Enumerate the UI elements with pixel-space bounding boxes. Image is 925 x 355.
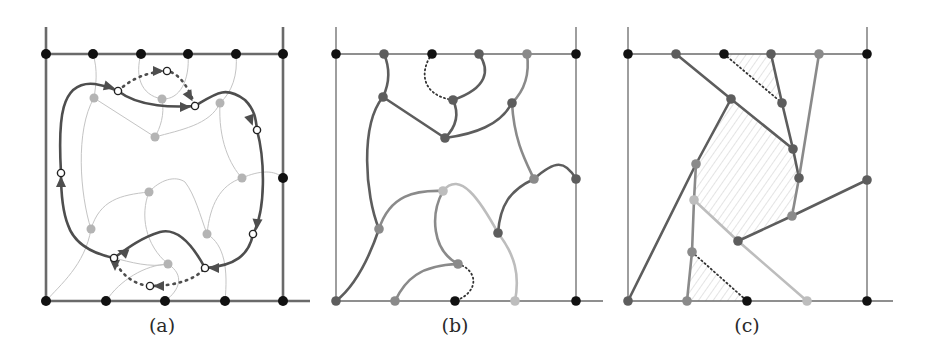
vertex <box>522 49 532 59</box>
tree-edge <box>453 54 485 100</box>
boundary-vertex <box>231 49 241 59</box>
vertex <box>777 98 787 108</box>
dual-edge <box>207 178 242 234</box>
vertex <box>766 49 776 59</box>
dual-edge <box>114 258 168 265</box>
inner-vertex <box>151 133 160 142</box>
vertex <box>448 95 458 105</box>
vertex <box>571 49 581 59</box>
tree-edge <box>498 179 534 233</box>
vertex <box>862 49 872 59</box>
vertex <box>529 174 539 184</box>
tree-edge <box>512 103 534 179</box>
tree-edge <box>367 97 383 229</box>
inner-vertex <box>87 225 96 234</box>
dual-edge <box>220 54 236 103</box>
vertex <box>571 296 581 306</box>
dual-edge <box>91 192 149 229</box>
vertex <box>788 144 798 154</box>
vertex <box>742 296 752 306</box>
vertex <box>862 175 872 185</box>
tree-edge <box>445 100 456 138</box>
boundary-vertex <box>278 49 288 59</box>
vertex <box>453 259 463 269</box>
inner-vertex <box>216 99 225 108</box>
inner-vertex <box>90 94 99 103</box>
vertex <box>623 296 633 306</box>
vertex <box>331 49 341 59</box>
vertex <box>687 247 697 257</box>
vertex <box>510 296 520 306</box>
vertex <box>571 174 581 184</box>
cycle-loop <box>60 84 263 268</box>
boundary-vertex <box>183 49 193 59</box>
vertex <box>691 159 701 169</box>
hatched-region <box>687 252 747 301</box>
dual-edge <box>81 98 94 229</box>
tree-edge <box>534 165 576 179</box>
inner-vertex <box>164 260 173 269</box>
vertex <box>802 296 812 306</box>
vertex <box>440 133 450 143</box>
vertex <box>474 49 484 59</box>
caption-a: (a) <box>149 314 175 336</box>
tree-edge <box>512 54 528 103</box>
vertex <box>726 94 736 104</box>
arrowhead-icon <box>180 102 191 112</box>
panel-c <box>623 27 893 306</box>
vertex <box>787 211 797 221</box>
vertex <box>390 296 400 306</box>
tree-edge <box>383 54 388 97</box>
figure: (a) (b) (c) <box>0 0 925 355</box>
boundary-vertex <box>88 49 98 59</box>
boundary-vertex <box>278 296 288 306</box>
vertex <box>493 228 503 238</box>
vertex <box>733 236 743 246</box>
vertex <box>682 296 692 306</box>
vertex <box>507 98 517 108</box>
boundary-vertex <box>278 173 288 183</box>
dual-edge <box>220 103 242 178</box>
vertex <box>814 49 824 59</box>
vertex <box>689 195 699 205</box>
open-vertex <box>114 87 121 94</box>
vertex <box>374 224 384 234</box>
vertex <box>862 296 872 306</box>
arrowhead-icon <box>153 281 164 291</box>
vertex <box>719 49 729 59</box>
dotted-connector <box>114 258 205 286</box>
dual-edge <box>46 229 91 301</box>
vertex <box>438 186 448 196</box>
tree-edge <box>383 97 445 138</box>
dotted-connector <box>118 71 195 106</box>
tree-edge <box>379 191 443 229</box>
dual-edge <box>93 54 96 98</box>
tree-edge <box>336 229 379 301</box>
inner-vertex <box>145 188 154 197</box>
vertex <box>379 49 389 59</box>
dotted-connector <box>425 54 453 100</box>
dotted-connector <box>455 264 473 301</box>
boundary-vertex <box>220 296 230 306</box>
vertex <box>671 49 681 59</box>
boundary-vertex <box>101 296 111 306</box>
vertex <box>331 296 341 306</box>
boundary-vertex <box>160 296 170 306</box>
arrowhead-icon <box>183 89 197 104</box>
tree-edge <box>435 191 458 264</box>
vertex <box>450 296 460 306</box>
vertex <box>623 49 633 59</box>
boundary-vertex <box>136 49 146 59</box>
panel-a <box>41 27 310 306</box>
open-vertex <box>57 169 64 176</box>
dual-edge <box>145 192 168 264</box>
inner-vertex <box>238 174 247 183</box>
caption-c: (c) <box>734 314 759 336</box>
inner-vertex <box>158 95 167 104</box>
vertex <box>427 49 437 59</box>
inner-vertex <box>203 230 212 239</box>
panel-b <box>331 27 603 306</box>
caption-b: (b) <box>442 314 469 336</box>
open-vertex <box>253 126 260 133</box>
open-vertex <box>110 254 117 261</box>
